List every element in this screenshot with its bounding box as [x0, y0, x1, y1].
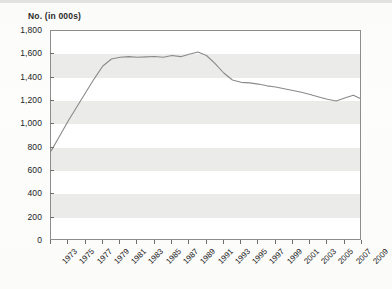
x-axis-tick-mark	[326, 240, 327, 244]
y-axis-tick-label: 1,200	[0, 95, 42, 105]
y-axis-tick-label: 600	[0, 165, 42, 175]
x-axis-tick-mark	[119, 240, 120, 244]
x-axis-tick-mark	[136, 240, 137, 244]
x-axis-tick-mark	[223, 240, 224, 244]
x-axis-tick-mark	[85, 240, 86, 244]
x-axis-tick-mark	[154, 240, 155, 244]
x-axis-tick-mark	[67, 240, 68, 244]
x-axis-tick-mark	[50, 240, 51, 244]
x-axis-tick-mark	[275, 240, 276, 244]
y-axis-tick-mark	[50, 77, 54, 78]
plot-area	[50, 30, 361, 240]
x-axis-tick-mark	[188, 240, 189, 244]
y-axis-tick-label: 1,400	[0, 72, 42, 82]
y-axis-tick-mark	[50, 147, 54, 148]
x-axis-tick-mark	[257, 240, 258, 244]
y-axis-tick-mark	[50, 217, 54, 218]
y-axis-tick-label: 200	[0, 212, 42, 222]
y-axis-tick-label: 800	[0, 142, 42, 152]
y-axis-tick-mark	[50, 193, 54, 194]
x-axis-tick-mark	[102, 240, 103, 244]
y-axis-tick-mark	[50, 123, 54, 124]
x-axis-tick-mark	[171, 240, 172, 244]
x-axis-tick-mark	[240, 240, 241, 244]
y-axis-tick-mark	[50, 170, 54, 171]
y-axis-tick-mark	[50, 100, 54, 101]
chart-axis-title: No. (in 000s)	[28, 11, 81, 21]
y-axis-tick-label: 1,000	[0, 118, 42, 128]
y-axis-tick-label: 1,600	[0, 48, 42, 58]
x-axis-tick-mark	[309, 240, 310, 244]
x-axis-tick-mark	[344, 240, 345, 244]
x-axis-tick-mark	[361, 240, 362, 244]
data-series-line	[51, 31, 361, 240]
x-axis-tick-mark	[206, 240, 207, 244]
page-top-edge	[0, 0, 392, 3]
x-axis-tick-mark	[292, 240, 293, 244]
y-axis-tick-label: 0	[0, 235, 42, 245]
y-axis-tick-label: 1,800	[0, 25, 42, 35]
y-axis-tick-mark	[50, 53, 54, 54]
y-axis-tick-label: 400	[0, 188, 42, 198]
